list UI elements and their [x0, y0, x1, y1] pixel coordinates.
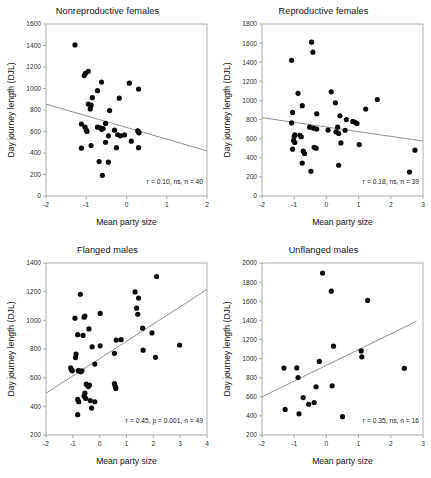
x-tick-label: 0: [125, 201, 129, 208]
y-tick-label: 400: [30, 149, 41, 156]
y-tick-label: 600: [30, 128, 41, 135]
data-point: [80, 333, 85, 338]
data-point: [338, 140, 343, 145]
data-point: [336, 163, 341, 168]
data-point: [149, 330, 154, 335]
data-point: [357, 142, 362, 147]
x-axis-label: Mean party size: [96, 217, 157, 227]
y-tick-label: 400: [246, 154, 257, 161]
y-tick-label: 1600: [26, 20, 41, 27]
data-point: [330, 383, 335, 388]
data-point: [289, 120, 294, 125]
y-tick-label: 800: [246, 116, 257, 123]
data-point: [100, 173, 105, 178]
data-point: [88, 143, 93, 148]
x-tick-label: -1: [291, 201, 297, 208]
data-point: [90, 344, 95, 349]
scatter-plot-unflanged-males: 200400600800100012001400160018002000-2-1…: [216, 239, 431, 478]
x-tick-label: 2: [389, 201, 393, 208]
data-point: [118, 133, 123, 138]
x-tick-label: 3: [421, 201, 425, 208]
plot-frame: [262, 24, 423, 196]
x-axis-label: Mean party size: [312, 217, 373, 227]
data-point: [107, 108, 112, 113]
data-point: [302, 151, 307, 156]
scatter-plot-nonreproductive-females: 02004006008001000120014001600-2-1012r = …: [0, 0, 215, 239]
y-tick-label: 200: [246, 173, 257, 180]
figure-container: Nonreproductive females 0200400600800100…: [0, 0, 431, 478]
data-point: [320, 270, 325, 275]
data-point: [129, 139, 134, 144]
data-point: [314, 111, 319, 116]
regression-line: [262, 118, 423, 141]
data-point: [101, 126, 106, 131]
data-point: [136, 296, 141, 301]
y-tick-label: 1800: [242, 20, 257, 27]
data-point: [95, 88, 100, 93]
stats-annotation: r = 0.45, p = 0.001, n = 49: [126, 417, 203, 425]
data-point: [119, 337, 124, 342]
data-point: [89, 405, 94, 410]
y-tick-label: 800: [246, 374, 257, 381]
y-tick-label: 400: [246, 412, 257, 419]
panel-nonreproductive-females: Nonreproductive females 0200400600800100…: [0, 0, 215, 239]
data-point: [333, 100, 338, 105]
data-point: [342, 128, 347, 133]
data-point: [354, 121, 359, 126]
data-point: [177, 342, 182, 347]
data-point: [114, 338, 119, 343]
x-tick-label: -2: [43, 201, 49, 208]
x-tick-label: 0: [325, 440, 329, 447]
data-point: [290, 147, 295, 152]
regression-line: [46, 290, 207, 394]
scatter-plot-reproductive-females: 020040060080010001200140016001800-2-1012…: [216, 0, 431, 239]
stats-annotation: r = 0.35, ns, n = 16: [363, 417, 419, 424]
y-axis-label: Day journey length (DJL): [6, 62, 16, 157]
data-point: [70, 368, 75, 373]
y-tick-label: 800: [30, 345, 41, 352]
data-point: [106, 133, 111, 138]
data-point: [329, 289, 334, 294]
y-tick-label: 600: [246, 135, 257, 142]
y-axis-label: Day journey length (DJL): [222, 62, 232, 157]
data-point: [300, 160, 305, 165]
data-point: [296, 411, 301, 416]
data-point: [313, 146, 318, 151]
data-point: [359, 354, 364, 359]
panel-flanged-males: Flanged males 200400600800100012001400-2…: [0, 239, 215, 478]
y-tick-label: 1000: [26, 85, 41, 92]
x-tick-label: -1: [70, 440, 76, 447]
data-point: [140, 326, 145, 331]
data-point: [86, 69, 91, 74]
data-point: [402, 366, 407, 371]
data-point: [153, 355, 158, 360]
data-point: [135, 312, 140, 317]
data-point: [281, 366, 286, 371]
x-tick-label: -2: [43, 440, 49, 447]
plot-frame: [46, 24, 207, 196]
data-point: [141, 348, 146, 353]
data-point: [312, 400, 317, 405]
data-point: [79, 368, 84, 373]
y-axis-label: Day journey length (DJL): [6, 301, 16, 396]
y-tick-label: 200: [30, 431, 41, 438]
data-point: [73, 355, 78, 360]
y-tick-label: 1400: [242, 317, 257, 324]
data-point: [97, 159, 102, 164]
data-point: [87, 383, 92, 388]
data-point: [283, 407, 288, 412]
data-point: [313, 384, 318, 389]
data-point: [329, 89, 334, 94]
data-point: [88, 398, 93, 403]
y-tick-label: 1400: [26, 42, 41, 49]
data-point: [407, 170, 412, 175]
y-tick-label: 1400: [242, 59, 257, 66]
data-point: [359, 348, 364, 353]
data-point: [92, 361, 97, 366]
y-tick-label: 200: [246, 431, 257, 438]
data-point: [78, 292, 83, 297]
y-tick-label: 1000: [242, 355, 257, 362]
y-tick-label: 400: [30, 403, 41, 410]
x-tick-label: 0: [98, 440, 102, 447]
data-point: [317, 359, 322, 364]
